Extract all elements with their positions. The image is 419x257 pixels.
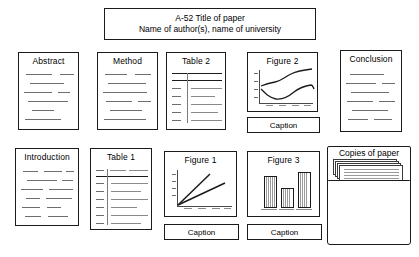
sheet-method-title: Method xyxy=(98,53,157,66)
table-body xyxy=(96,168,147,225)
sheet-introduction: Introduction xyxy=(15,148,79,226)
sheet-conclusion-title: Conclusion xyxy=(341,51,401,64)
sheet-method: Method xyxy=(97,52,158,130)
sheet-figure2: Figure 2 xyxy=(247,52,318,112)
paper-stack xyxy=(333,159,405,181)
sheet-table2: Table 2 xyxy=(166,52,226,130)
copies-of-paper-label: Copies of paper xyxy=(329,147,409,159)
bar-1 xyxy=(264,176,277,208)
sheet-conclusion: Conclusion xyxy=(340,50,402,132)
text-lines xyxy=(21,166,73,221)
bar-3 xyxy=(298,172,311,208)
figure3-chart xyxy=(248,152,319,216)
sheet-figure1: Figure 1 xyxy=(164,151,237,217)
figure2-curves xyxy=(248,53,319,113)
poster-title-banner: A-52 Title of paper Name of author(s), n… xyxy=(104,8,316,40)
caption-figure3: Caption xyxy=(247,224,322,240)
sheet-table1-title: Table 1 xyxy=(91,149,151,162)
caption-figure1: Caption xyxy=(164,224,239,240)
caption-figure1-label: Caption xyxy=(188,228,216,237)
text-lines xyxy=(24,70,73,125)
poster-title-line2: Name of author(s), name of university xyxy=(139,24,281,35)
figure1-lines xyxy=(165,152,238,218)
sheet-abstract: Abstract xyxy=(18,52,79,130)
sheet-abstract-title: Abstract xyxy=(19,53,78,66)
caption-figure3-label: Caption xyxy=(271,228,299,237)
caption-figure2-label: Caption xyxy=(270,121,298,130)
table-body xyxy=(172,71,221,125)
copies-of-paper-box: Copies of paper xyxy=(327,146,411,245)
sheet-figure3: Figure 3 xyxy=(247,151,320,217)
text-lines xyxy=(103,70,152,125)
sheet-table1: Table 1 xyxy=(90,148,152,230)
paper-sheet-top xyxy=(339,165,403,181)
figure1-chart xyxy=(165,152,236,216)
sheet-table2-title: Table 2 xyxy=(167,53,225,66)
poster-title-line1: A-52 Title of paper xyxy=(175,13,244,24)
caption-figure2: Caption xyxy=(247,117,320,133)
figure2-chart xyxy=(248,53,317,111)
bar-2 xyxy=(281,188,294,208)
poster-layout-diagram: A-52 Title of paper Name of author(s), n… xyxy=(0,0,419,257)
sheet-introduction-title: Introduction xyxy=(16,149,78,162)
text-lines xyxy=(346,68,396,127)
